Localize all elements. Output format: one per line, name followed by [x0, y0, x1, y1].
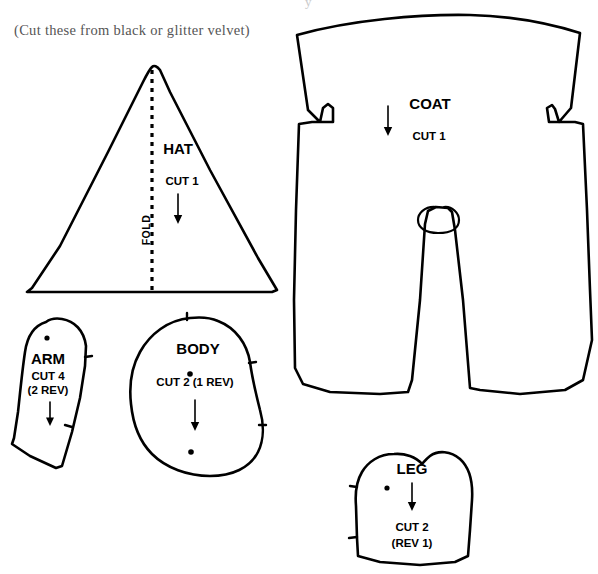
- hat-fold-label: FOLD: [140, 215, 152, 246]
- pattern-piece-arm: ARM CUT 4 (2 REV): [12, 319, 92, 468]
- pattern-piece-hat: HAT CUT 1 FOLD: [27, 66, 277, 292]
- coat-cut-label: CUT 1: [412, 130, 446, 142]
- body-dot-lower: [188, 449, 194, 455]
- hat-cut-label: CUT 1: [165, 175, 199, 187]
- body-label: BODY: [176, 340, 219, 357]
- leg-notch-lower: [349, 537, 357, 538]
- coat-outline: [294, 15, 592, 394]
- pattern-drawing: y HAT CUT 1 FOLD COAT CUT 1: [0, 0, 598, 574]
- cropped-text-artifact: y: [305, 0, 312, 9]
- arm-notch-upper: [85, 356, 92, 357]
- leg-cut-label-2: (REV 1): [392, 537, 433, 549]
- arm-label: ARM: [31, 350, 65, 367]
- leg-dot: [384, 485, 389, 490]
- body-cut-label: CUT 2 (1 REV): [156, 376, 233, 388]
- arm-dot: [44, 335, 49, 340]
- arm-cut-label-2: (2 REV): [28, 384, 69, 396]
- coat-label: COAT: [409, 95, 450, 112]
- pattern-piece-body: BODY CUT 2 (1 REV): [130, 313, 266, 476]
- arm-cut-label-1: CUT 4: [31, 370, 65, 382]
- body-notch-right-upper: [249, 362, 256, 363]
- pattern-piece-leg: LEG CUT 2 (REV 1): [349, 452, 472, 565]
- leg-label: LEG: [397, 460, 428, 477]
- leg-cut-label-1: CUT 2: [395, 521, 428, 533]
- leg-notch-upper: [350, 486, 357, 487]
- pattern-sheet: (Cut these from black or glitter velvet)…: [0, 0, 598, 574]
- hat-label: HAT: [163, 140, 193, 157]
- pattern-piece-coat: COAT CUT 1: [294, 15, 592, 394]
